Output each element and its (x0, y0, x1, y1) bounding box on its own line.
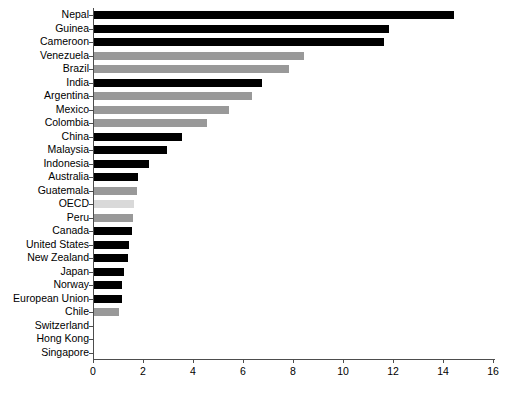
bar-row (94, 319, 494, 333)
bar (94, 268, 124, 276)
x-axis-tick-label: 16 (478, 365, 506, 377)
bar-row (94, 197, 494, 211)
x-tick (493, 359, 494, 363)
bar-row (94, 305, 494, 319)
bar-chart: NepalGuineaCameroonVenezuelaBrazilIndiaA… (0, 0, 506, 393)
x-tick (443, 359, 444, 363)
y-axis-label: Chile (3, 306, 89, 317)
y-tick (89, 218, 93, 219)
bar-row (94, 224, 494, 238)
bar-row (94, 130, 494, 144)
y-tick (89, 258, 93, 259)
y-tick (89, 83, 93, 84)
bar (94, 146, 167, 154)
bar-row (94, 332, 494, 346)
bar-row (94, 251, 494, 265)
y-axis-label: European Union (3, 293, 89, 304)
y-tick (89, 56, 93, 57)
x-axis-tick-label: 0 (78, 365, 108, 377)
x-axis-tick-label: 8 (278, 365, 308, 377)
y-axis-label: Hong Kong (3, 333, 89, 344)
bar (94, 79, 262, 87)
bar (94, 38, 384, 46)
y-axis-label: OECD (3, 198, 89, 209)
y-tick (89, 110, 93, 111)
x-tick (393, 359, 394, 363)
y-axis-label: Switzerland (3, 320, 89, 331)
y-axis-label: Guinea (3, 23, 89, 34)
bar-row (94, 346, 494, 360)
bar (94, 106, 229, 114)
bar (94, 65, 289, 73)
y-axis-label: Nepal (3, 9, 89, 20)
y-axis-label: Mexico (3, 104, 89, 115)
y-axis-label: United States (3, 239, 89, 250)
y-axis-label: New Zealand (3, 252, 89, 263)
bar-row (94, 49, 494, 63)
bar (94, 92, 252, 100)
x-tick (343, 359, 344, 363)
y-axis-label: Malaysia (3, 144, 89, 155)
bar (94, 295, 122, 303)
y-axis-label: Australia (3, 171, 89, 182)
y-axis-label: Venezuela (3, 50, 89, 61)
bar-row (94, 143, 494, 157)
y-tick (89, 191, 93, 192)
bar (94, 160, 149, 168)
y-tick (89, 353, 93, 354)
y-axis-label: Guatemala (3, 185, 89, 196)
y-tick (89, 204, 93, 205)
y-axis-label: Indonesia (3, 158, 89, 169)
bar (94, 187, 137, 195)
y-tick (89, 231, 93, 232)
y-tick (89, 123, 93, 124)
bar-row (94, 238, 494, 252)
y-axis-label: China (3, 131, 89, 142)
bar (94, 241, 129, 249)
bar (94, 173, 138, 181)
y-tick (89, 299, 93, 300)
bar-row (94, 184, 494, 198)
y-tick (89, 137, 93, 138)
x-axis-tick-label: 4 (178, 365, 208, 377)
bar-row (94, 62, 494, 76)
bar-row (94, 76, 494, 90)
y-axis-label: Argentina (3, 90, 89, 101)
y-axis-label: Singapore (3, 347, 89, 358)
y-tick (89, 29, 93, 30)
bar (94, 227, 132, 235)
y-tick (89, 164, 93, 165)
bar (94, 308, 119, 316)
bar-row (94, 22, 494, 36)
bar-row (94, 211, 494, 225)
x-tick (243, 359, 244, 363)
x-axis-tick-label: 10 (328, 365, 358, 377)
y-axis-label: Brazil (3, 63, 89, 74)
bar-row (94, 103, 494, 117)
x-tick (293, 359, 294, 363)
x-tick (193, 359, 194, 363)
bar-row (94, 157, 494, 171)
y-axis-label: Cameroon (3, 36, 89, 47)
bar-row (94, 89, 494, 103)
bar (94, 254, 128, 262)
bar-row (94, 35, 494, 49)
y-tick (89, 245, 93, 246)
y-axis-label: India (3, 77, 89, 88)
bar (94, 119, 207, 127)
y-tick (89, 339, 93, 340)
y-axis-label: Japan (3, 266, 89, 277)
bar-row (94, 116, 494, 130)
y-axis-category-labels: NepalGuineaCameroonVenezuelaBrazilIndiaA… (0, 8, 89, 360)
y-axis-label: Canada (3, 225, 89, 236)
y-tick (89, 177, 93, 178)
y-axis-label: Norway (3, 279, 89, 290)
x-axis-tick-label: 6 (228, 365, 258, 377)
bar-row (94, 8, 494, 22)
y-tick (89, 42, 93, 43)
y-tick (89, 15, 93, 16)
bar (94, 25, 389, 33)
bar (94, 200, 134, 208)
bar (94, 214, 133, 222)
bar (94, 52, 304, 60)
